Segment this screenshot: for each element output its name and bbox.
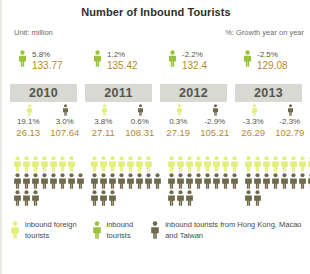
person-icon xyxy=(99,156,108,172)
person-icon xyxy=(167,156,176,172)
person-icon xyxy=(307,156,310,172)
hkmt-growth-pct: 3.0% xyxy=(47,116,84,127)
person-icon xyxy=(31,190,40,206)
person-icon xyxy=(13,156,22,172)
person-icon xyxy=(31,156,40,172)
person-icon xyxy=(212,156,221,172)
person-icon xyxy=(230,156,239,172)
person-icon xyxy=(13,173,22,189)
person-icon xyxy=(298,156,307,172)
pictogram-row xyxy=(90,173,162,190)
hkmt-value: 107.64 xyxy=(47,127,84,138)
person-icon xyxy=(167,173,176,189)
person-icon xyxy=(185,190,194,206)
foreign-stat: 19.1% 26.13 xyxy=(10,116,47,138)
person-icon xyxy=(99,156,108,172)
breakdown-column-2012: 0.3% 27.19 -2.9% 105.21 xyxy=(158,104,233,152)
person-icon xyxy=(40,173,49,189)
person-icon xyxy=(230,156,239,172)
person-icon xyxy=(221,156,230,172)
total-growth-pct: -2.2% xyxy=(182,49,207,60)
hkmt-stat: -2.9% 105.21 xyxy=(197,116,234,138)
person-icon xyxy=(135,156,144,172)
person-icon xyxy=(58,156,67,172)
person-icon xyxy=(99,173,108,189)
person-icon xyxy=(280,156,289,172)
person-icon xyxy=(289,156,298,172)
foreign-growth-pct: 0.3% xyxy=(160,116,197,127)
person-icon xyxy=(271,156,280,172)
year-label-2010: 2010 xyxy=(10,84,77,102)
person-icon xyxy=(212,173,221,189)
person-icon xyxy=(298,173,307,189)
person-icon xyxy=(90,190,99,206)
person-icon xyxy=(62,104,69,116)
person-icon xyxy=(230,173,239,189)
person-icon xyxy=(135,156,144,172)
person-icon xyxy=(22,173,31,189)
person-icon xyxy=(280,156,289,172)
person-icon xyxy=(92,221,102,239)
person-icon xyxy=(40,173,49,189)
person-icon xyxy=(221,173,230,189)
person-icon xyxy=(67,173,76,189)
person-icon xyxy=(17,49,29,67)
person-icon xyxy=(92,49,104,67)
person-icon xyxy=(126,173,135,189)
person-icon-hkmt xyxy=(273,104,309,116)
person-icon xyxy=(307,173,310,189)
person-icon-hkmt xyxy=(48,104,84,116)
person-icon xyxy=(185,156,194,172)
total-growth-pct: 5.8% xyxy=(32,49,63,60)
person-icon xyxy=(176,190,185,206)
pictogram-band xyxy=(8,156,308,212)
person-icon xyxy=(117,156,126,172)
person-icon xyxy=(58,156,67,172)
legend-item-hkmt: inbound tourists from Hong Kong, Macao a… xyxy=(150,220,306,241)
person-icon xyxy=(242,50,253,67)
foreign-stat: 3.8% 27.11 xyxy=(85,116,122,138)
person-icon xyxy=(22,156,31,172)
person-icon xyxy=(108,173,117,189)
person-icon xyxy=(289,156,298,172)
person-icon xyxy=(99,190,108,206)
pictogram-row xyxy=(90,190,162,207)
person-icon xyxy=(144,173,153,189)
person-icon xyxy=(92,50,103,67)
person-icon xyxy=(31,156,40,172)
person-icon-foreign xyxy=(87,104,123,116)
pictogram-row xyxy=(167,173,239,190)
hkmt-value: 102.79 xyxy=(272,127,309,138)
pictogram-row xyxy=(167,190,239,207)
legend-item-foreign: inbound foreign tourists xyxy=(10,220,92,241)
person-icon xyxy=(22,190,31,206)
person-icon xyxy=(194,173,203,189)
breakdown-column-2011: 3.8% 27.11 0.6% 108.31 xyxy=(83,104,158,152)
person-icon xyxy=(212,173,221,189)
pictogram-column-2012 xyxy=(162,156,239,212)
person-icon xyxy=(13,190,22,206)
year-column-2011: 1.2% 135.42 2011 xyxy=(83,46,158,102)
pictogram-row xyxy=(13,190,85,207)
person-icon xyxy=(167,190,176,206)
person-icon xyxy=(167,49,179,67)
person-icon xyxy=(167,50,178,67)
person-icon xyxy=(49,173,58,189)
person-icon xyxy=(244,156,253,172)
person-icon xyxy=(144,173,153,189)
person-icon xyxy=(262,156,271,172)
person-icon-foreign xyxy=(237,104,273,116)
pictogram-row xyxy=(13,173,85,190)
person-icon-hkmt xyxy=(123,104,159,116)
total-value: 135.42 xyxy=(107,60,138,71)
person-icon xyxy=(22,190,31,206)
person-icon xyxy=(31,173,40,189)
person-icon xyxy=(117,156,126,172)
person-icon xyxy=(287,104,294,116)
person-icon xyxy=(262,173,271,189)
legend-item-total: inbound tourists xyxy=(92,220,151,241)
person-icon xyxy=(58,173,67,189)
hkmt-stat: 0.6% 108.31 xyxy=(122,116,159,138)
person-icon xyxy=(108,156,117,172)
year-column-2013: -2.5% 129.08 2013 xyxy=(233,46,308,102)
